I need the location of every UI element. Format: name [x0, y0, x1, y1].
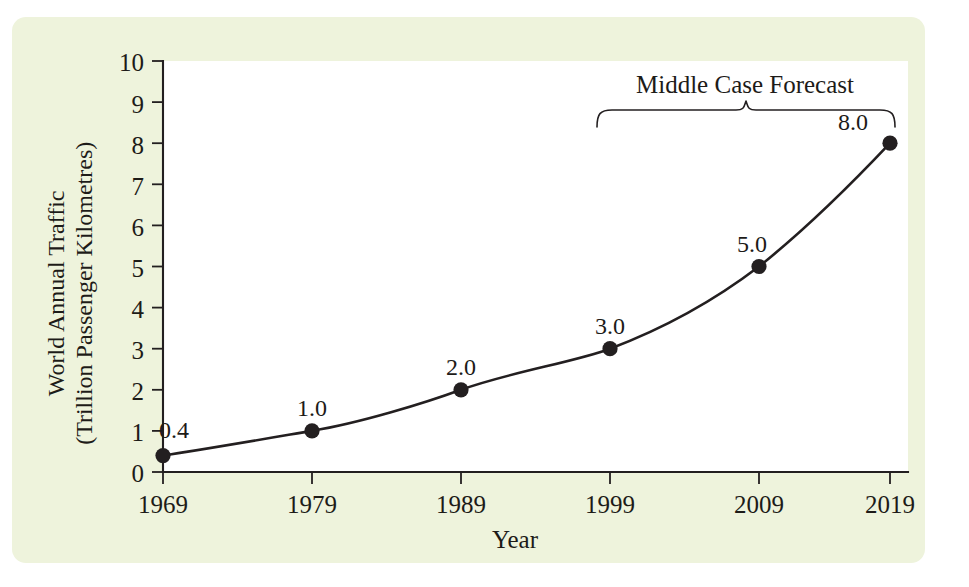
chart-figure: 0 1 2 3 4 5 6 7 8 9 10 1969 1979 1989 19… [0, 0, 969, 587]
y-tick-label: 1 [104, 420, 144, 445]
x-tick-label: 2009 [704, 492, 814, 517]
data-point-label: 1.0 [277, 396, 347, 420]
data-point-marker [304, 423, 319, 438]
y-tick-label: 7 [104, 174, 144, 199]
x-axis-title: Year [415, 527, 615, 552]
y-axis-title-line2: (Trillion Passenger Kilometres) [71, 142, 97, 445]
y-tick-label: 8 [104, 133, 144, 158]
data-point-markers [155, 136, 897, 464]
x-axis-ticks [163, 472, 890, 484]
data-series-line [163, 143, 890, 455]
y-axis-title-line1: World Annual Traffic [43, 191, 69, 397]
y-tick-label: 10 [104, 50, 144, 75]
data-point-label: 3.0 [575, 314, 645, 338]
forecast-annotation-label: Middle Case Forecast [575, 72, 915, 97]
data-point-label: 5.0 [717, 232, 787, 256]
x-tick-label: 1999 [555, 492, 665, 517]
y-tick-label: 2 [104, 379, 144, 404]
y-tick-label: 0 [104, 461, 144, 486]
y-axis-ticks [152, 61, 163, 472]
y-tick-label: 3 [104, 338, 144, 363]
data-point-marker [155, 448, 170, 463]
data-point-marker [882, 136, 897, 151]
y-tick-label: 5 [104, 256, 144, 281]
x-tick-label: 1989 [406, 492, 516, 517]
data-point-label: 2.0 [426, 355, 496, 379]
data-point-label: 0.4 [139, 418, 209, 442]
data-point-marker [602, 341, 617, 356]
y-tick-label: 4 [104, 297, 144, 322]
y-axis-title: World Annual Traffic (Trillion Passenger… [42, 113, 99, 473]
data-point-label: 8.0 [818, 110, 888, 134]
x-tick-label: 1979 [257, 492, 367, 517]
x-tick-label: 2019 [835, 492, 945, 517]
x-tick-label: 1969 [108, 492, 218, 517]
y-tick-label: 6 [104, 215, 144, 240]
data-point-marker [453, 382, 468, 397]
data-point-marker [751, 259, 766, 274]
y-tick-label: 9 [104, 92, 144, 117]
